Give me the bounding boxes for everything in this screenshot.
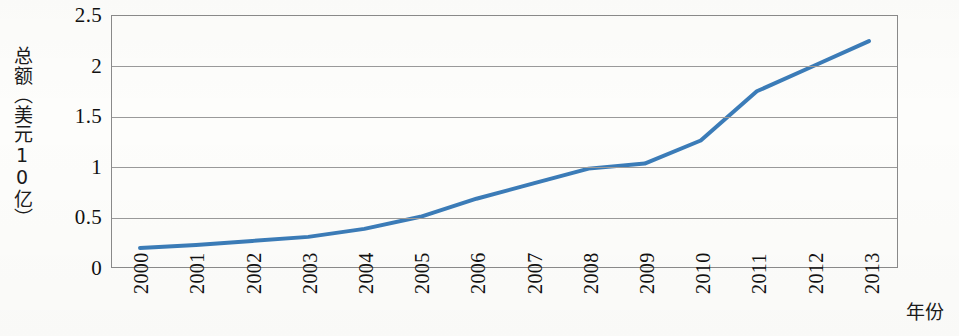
gridline <box>112 66 897 67</box>
x-axis-tick-label-group: 2000200120022003200420052006200720082009… <box>0 268 959 336</box>
gridline <box>112 218 897 219</box>
x-axis-tick-label: 2012 <box>805 276 828 294</box>
line-chart-figure: 总额（美元10亿） 00.511.522.5 20002001200220032… <box>0 0 959 336</box>
x-axis-tick-label: 2002 <box>243 276 266 294</box>
x-axis-tick-label: 2000 <box>130 276 153 294</box>
y-axis-tick-label: 2.5 <box>38 3 102 28</box>
x-axis-tick-label: 2009 <box>636 276 659 294</box>
x-axis-tick-label: 2006 <box>467 276 490 294</box>
x-axis-tick-label: 2004 <box>355 276 378 294</box>
y-axis-tick-label: 0.5 <box>38 205 102 230</box>
x-axis-tick-label: 2010 <box>692 276 715 294</box>
y-axis-title: 总额（美元10亿） <box>2 6 32 268</box>
x-axis-title: 年份 <box>906 297 944 324</box>
y-axis-tick-label: 2 <box>38 53 102 78</box>
y-axis-tick-label: 1 <box>38 154 102 179</box>
gridline <box>112 117 897 118</box>
x-axis-tick-label: 2005 <box>411 276 434 294</box>
x-axis-tick-label: 2013 <box>861 276 884 294</box>
gridline <box>112 167 897 168</box>
x-axis-tick-label: 2011 <box>748 276 771 294</box>
x-axis-tick-label: 2008 <box>580 276 603 294</box>
plot-area <box>111 15 898 268</box>
y-axis-tick-label: 1.5 <box>38 104 102 129</box>
x-axis-tick-label: 2001 <box>186 276 209 294</box>
x-axis-tick-label: 2007 <box>524 276 547 294</box>
x-axis-tick-label: 2003 <box>299 276 322 294</box>
data-series-line <box>112 16 897 267</box>
